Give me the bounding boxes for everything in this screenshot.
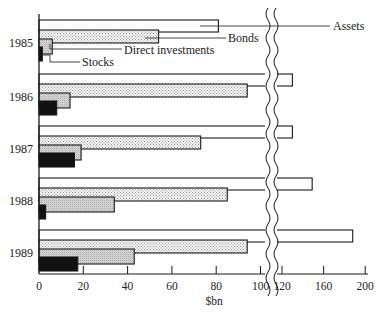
- x-tick-label: 20: [78, 280, 90, 292]
- axis-break-gap: [265, 6, 277, 281]
- year-label: 1985: [9, 36, 33, 50]
- x-axis-title: $bn: [205, 295, 223, 307]
- bonds-legend-label: Bonds: [228, 31, 259, 45]
- stocks-bar: [39, 153, 74, 167]
- year-label: 1986: [9, 90, 33, 104]
- stocks-leader-line: [43, 55, 80, 62]
- x-tick-label: 120: [273, 280, 291, 292]
- stocks-legend-label: Stocks: [82, 55, 114, 69]
- x-tick-label: 40: [122, 280, 134, 292]
- x-tick-label: 60: [166, 280, 178, 292]
- direct-investments-bar: [39, 197, 114, 212]
- x-tick-label: 200: [357, 280, 375, 292]
- direct-leader-line: [50, 44, 122, 49]
- assets-legend-label: Assets: [333, 19, 365, 33]
- x-tick-label: 160: [315, 280, 333, 292]
- x-tick-label: 0: [36, 280, 42, 292]
- bonds-bar: [39, 30, 159, 43]
- bar-chart: 1985198619871988198902040608010012016020…: [0, 0, 383, 314]
- year-label: 1987: [9, 142, 33, 156]
- stocks-bar: [39, 205, 46, 219]
- year-label: 1988: [9, 194, 33, 208]
- direct-investments-legend-label: Direct investments: [124, 43, 215, 57]
- stocks-bar: [39, 101, 57, 115]
- year-label: 1989: [9, 246, 33, 260]
- stocks-bar: [39, 257, 78, 271]
- x-tick-label: 80: [210, 280, 222, 292]
